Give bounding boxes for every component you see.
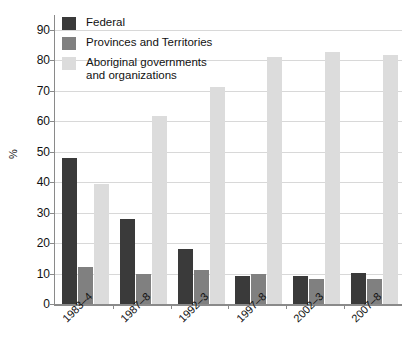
legend-swatch-icon bbox=[62, 17, 76, 30]
bar-chart: % 9080706050403020100 1983–41987–81992–3… bbox=[0, 0, 410, 360]
bar[interactable] bbox=[178, 249, 193, 304]
bar-group bbox=[286, 15, 344, 304]
y-axis-tick-label: 50 bbox=[24, 146, 50, 158]
y-axis-tick-label: 90 bbox=[24, 24, 50, 36]
y-axis-tick-mark bbox=[50, 152, 54, 153]
legend-swatch-icon bbox=[62, 57, 76, 70]
legend-label: Provinces and Territories bbox=[86, 36, 212, 49]
y-axis-tick-mark bbox=[50, 243, 54, 244]
bar[interactable] bbox=[152, 116, 167, 304]
y-axis-tick-label: 80 bbox=[24, 54, 50, 66]
y-axis-tick-mark bbox=[50, 121, 54, 122]
legend-item[interactable]: Aboriginal governments and organizations bbox=[62, 56, 252, 82]
legend-swatch-icon bbox=[62, 37, 76, 50]
y-axis-title: % bbox=[7, 143, 19, 165]
bar[interactable] bbox=[62, 158, 77, 304]
bar[interactable] bbox=[325, 52, 340, 304]
y-axis-tick-label: 10 bbox=[24, 268, 50, 280]
legend: FederalProvinces and TerritoriesAborigin… bbox=[62, 16, 252, 88]
y-axis-tick-label: 0 bbox=[24, 298, 50, 310]
y-axis-tick-mark bbox=[50, 274, 54, 275]
x-axis-tick-labels: 1983–41987–81992–31997–82002–32007–8 bbox=[54, 308, 402, 360]
bar[interactable] bbox=[235, 276, 250, 304]
y-axis-tick-label: 20 bbox=[24, 237, 50, 249]
legend-label: Federal bbox=[86, 16, 125, 29]
y-axis-tick-label: 70 bbox=[24, 85, 50, 97]
bar[interactable] bbox=[120, 219, 135, 304]
y-axis-tick-label: 30 bbox=[24, 207, 50, 219]
y-axis-tick-mark bbox=[50, 91, 54, 92]
bar[interactable] bbox=[94, 184, 109, 304]
legend-item[interactable]: Federal bbox=[62, 16, 252, 30]
y-axis-tick-mark bbox=[50, 30, 54, 31]
legend-item[interactable]: Provinces and Territories bbox=[62, 36, 252, 50]
legend-label: Aboriginal governments and organizations bbox=[86, 56, 207, 82]
bar[interactable] bbox=[267, 57, 282, 305]
y-axis-tick-label: 40 bbox=[24, 176, 50, 188]
y-axis-tick-mark bbox=[50, 213, 54, 214]
y-axis-tick-labels: 9080706050403020100 bbox=[22, 0, 50, 360]
y-axis-tick-label: 60 bbox=[24, 115, 50, 127]
y-axis-tick-mark bbox=[50, 60, 54, 61]
bar-group bbox=[344, 15, 402, 304]
y-axis-tick-mark bbox=[50, 182, 54, 183]
y-axis-tick-mark bbox=[50, 304, 54, 305]
bar[interactable] bbox=[210, 87, 225, 304]
bar[interactable] bbox=[383, 55, 398, 304]
